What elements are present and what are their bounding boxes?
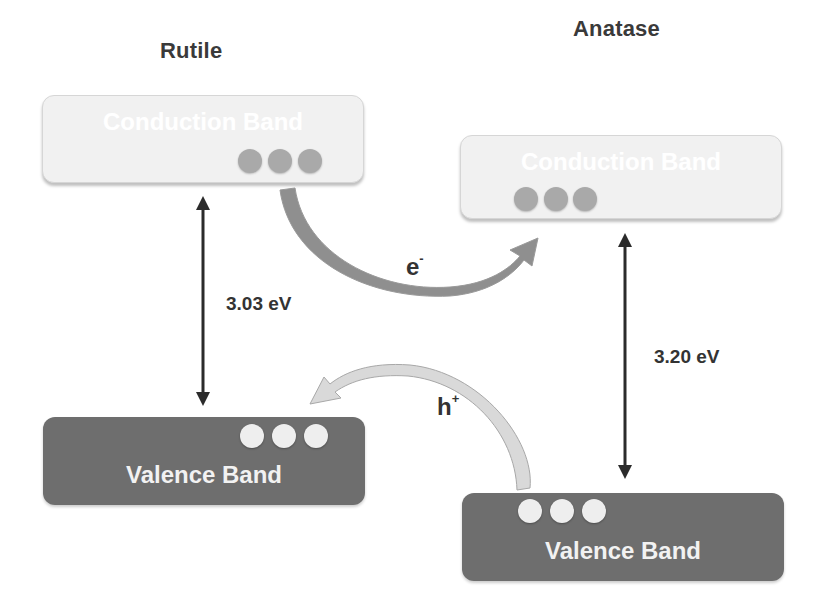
hole-symbol: h — [437, 393, 452, 420]
electron-dot — [238, 149, 262, 173]
anatase-band-gap-label: 3.20 eV — [654, 346, 720, 368]
hole-dot — [304, 424, 328, 448]
electron-dot — [573, 187, 597, 211]
hole-label: h+ — [437, 393, 459, 421]
rutile-band-gap-arrow — [196, 196, 210, 406]
hole-dot — [518, 499, 542, 523]
anatase-conduction-band-label: Conduction Band — [461, 148, 781, 176]
electron-dot — [298, 149, 322, 173]
anatase-conduction-band: Conduction Band — [460, 135, 782, 219]
hole-charge: + — [452, 391, 460, 406]
band-alignment-diagram: Rutile Anatase Conductio — [0, 0, 830, 608]
rutile-valence-band: Valence Band — [43, 417, 365, 505]
electron-charge: - — [419, 251, 423, 266]
rutile-band-gap-label: 3.03 eV — [226, 293, 292, 315]
rutile-conduction-band: Conduction Band — [42, 95, 364, 183]
electron-dot — [268, 149, 292, 173]
anatase-valence-band: Valence Band — [462, 493, 784, 581]
hole-dot — [550, 499, 574, 523]
rutile-conduction-band-label: Conduction Band — [43, 108, 363, 136]
hole-dot — [272, 424, 296, 448]
electron-label: e- — [406, 253, 424, 281]
anatase-valence-band-label: Valence Band — [462, 537, 784, 565]
electron-symbol: e — [406, 253, 419, 280]
hole-dot — [582, 499, 606, 523]
electron-dot — [544, 187, 568, 211]
rutile-valence-band-label: Valence Band — [43, 461, 365, 489]
anatase-band-gap-arrow — [618, 233, 632, 479]
hole-dot — [240, 424, 264, 448]
electron-dot — [514, 187, 538, 211]
